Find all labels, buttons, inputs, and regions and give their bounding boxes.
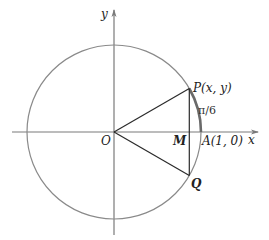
segment-op [114,89,189,133]
unit-circle-diagram: y x O P(x, y) π/6 M A(1, 0) Q [0,0,269,240]
point-q-label: Q [191,177,202,191]
point-a-label: A(1, 0) [201,134,243,148]
y-axis-label: y [100,7,108,21]
point-m-label: M [172,134,187,148]
origin-label: O [101,134,111,148]
point-p-label: P(x, y) [192,81,232,95]
x-axis-label: x [248,133,255,147]
arc-angle-label: π/6 [198,104,216,117]
